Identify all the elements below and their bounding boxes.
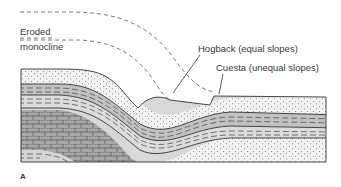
monocline-label: monocline [20,42,63,52]
cuesta-label: Cuesta (unequal slopes) [216,63,319,73]
hogback-label: Hogback (equal slopes) [198,44,298,54]
panel-label: A [20,173,26,181]
rock-layers [0,0,341,187]
hogback-leader-line [173,55,200,93]
cuesta-leader-line [219,74,223,94]
monocline-diagram [0,0,341,187]
eroded-label: Eroded [20,27,51,37]
